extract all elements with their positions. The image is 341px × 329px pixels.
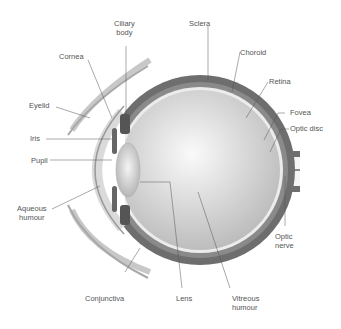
lens <box>116 143 140 197</box>
label-eyelid: Eyelid <box>29 102 49 111</box>
label-fovea: Fovea <box>290 109 311 118</box>
label-optic-nerve: Optic nerve <box>275 233 294 250</box>
label-ciliary-body: Ciliary body <box>114 20 135 37</box>
label-pupil: Pupil <box>31 157 48 166</box>
label-cornea: Cornea <box>59 53 84 62</box>
label-conjunctiva: Conjunctiva <box>85 295 124 304</box>
label-sclera: Sclera <box>189 20 210 29</box>
label-retina: Retina <box>269 78 291 87</box>
eye-diagram <box>0 0 341 329</box>
label-optic-disc: Optic disc <box>290 125 323 134</box>
label-aqueous-humour: Aqueous humour <box>17 205 47 222</box>
label-choroid: Choroid <box>240 49 266 58</box>
label-iris: Iris <box>30 135 40 144</box>
label-lens: Lens <box>176 295 192 304</box>
label-vitreous-humour: Vitreous humour <box>232 295 259 312</box>
vitreous-humour <box>120 90 280 250</box>
